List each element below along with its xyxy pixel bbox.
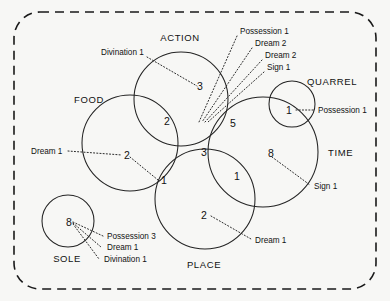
leader-dream-center-2 <box>205 60 262 122</box>
leader-food-place-count <box>130 157 158 180</box>
leader-dream-food <box>68 151 122 155</box>
venn-diagram-figure: FOOD ACTION PLACE TIME QUARREL SOLE 2 3 … <box>0 0 390 301</box>
annotation-sign-center: Sign 1 <box>267 63 291 72</box>
count-place-only: 2 <box>201 209 207 221</box>
annotation-dream-center-2: Dream 2 <box>265 51 297 60</box>
annotation-dream-center-1: Dream 2 <box>255 39 287 48</box>
count-place-time: 1 <box>234 170 240 182</box>
annotation-possession-center-1: Possession 1 <box>240 27 289 36</box>
annotation-dream-food: Dream 1 <box>31 147 63 156</box>
set-label-time: TIME <box>328 147 353 158</box>
circle-time <box>208 97 318 207</box>
annotation-sign-time: Sign 1 <box>314 182 338 191</box>
count-action-time: 5 <box>230 117 236 129</box>
venn-diagram-canvas: FOOD ACTION PLACE TIME QUARREL SOLE 2 3 … <box>0 0 390 301</box>
set-label-place: PLACE <box>187 259 221 270</box>
leader-dream-sole <box>73 223 101 247</box>
leader-sign-time <box>272 157 310 185</box>
circle-quarrel <box>269 81 315 127</box>
count-action-only: 3 <box>197 80 203 92</box>
count-food-only: 2 <box>124 149 130 161</box>
set-label-sole: SOLE <box>53 253 81 264</box>
count-center-all: 3 <box>201 146 207 158</box>
leader-divination-action <box>147 57 197 86</box>
count-food-place: 1 <box>161 174 167 186</box>
leader-possession-sole <box>73 222 103 236</box>
count-quarrel-time: 1 <box>286 104 292 116</box>
annotation-dream-sole: Dream 1 <box>107 243 139 252</box>
annotation-divination-action: Divination 1 <box>101 48 144 57</box>
annotation-possession-quarrel: Possession 1 <box>318 106 367 115</box>
annotation-dream-place: Dream 1 <box>255 236 287 245</box>
leader-possession-center-1 <box>199 36 237 122</box>
set-label-action: ACTION <box>160 32 200 43</box>
set-label-food: FOOD <box>74 94 104 105</box>
circle-place <box>155 149 255 249</box>
count-sole-only: 8 <box>66 216 72 228</box>
count-time-only: 8 <box>268 147 274 159</box>
annotation-divination-sole: Divination 1 <box>104 255 147 264</box>
annotation-possession-sole: Possession 3 <box>107 232 156 241</box>
leader-dream-place <box>211 216 251 239</box>
count-food-action: 2 <box>164 115 170 127</box>
set-label-quarrel: QUARREL <box>307 76 357 87</box>
